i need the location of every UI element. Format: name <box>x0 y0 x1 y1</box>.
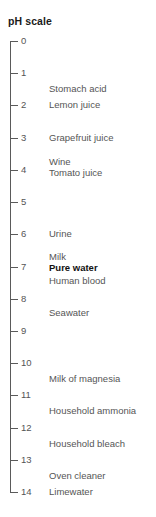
substance-label: Limewater <box>49 487 93 497</box>
axis-tick <box>11 395 18 396</box>
substance-label: Urine <box>49 230 72 240</box>
axis-tick <box>11 267 18 268</box>
axis-tick <box>11 492 18 493</box>
substance-label: Seawater <box>49 308 89 318</box>
axis-tick <box>11 73 18 74</box>
substance-label: Milk <box>49 253 66 263</box>
axis-tick <box>11 170 18 171</box>
axis-tick <box>11 41 18 42</box>
axis-tick-label: 8 <box>21 294 26 304</box>
axis-tick <box>11 234 18 235</box>
axis-tick <box>11 460 18 461</box>
axis-tick-label: 9 <box>21 326 26 336</box>
axis-tick-label: 1 <box>21 68 26 78</box>
axis-tick <box>11 299 18 300</box>
axis-tick <box>11 202 18 203</box>
axis-tick <box>11 138 18 139</box>
axis-tick-label: 6 <box>21 230 26 240</box>
axis-tick-label: 12 <box>21 423 32 433</box>
axis-tick-label: 13 <box>21 455 32 465</box>
axis-tick <box>11 105 18 106</box>
axis-tick-label: 0 <box>21 36 26 46</box>
substance-label: Household bleach <box>49 439 125 449</box>
axis-tick-label: 11 <box>21 391 31 401</box>
axis-tick-label: 14 <box>21 487 32 497</box>
axis-tick <box>11 363 18 364</box>
substance-label: Household ammonia <box>49 407 136 417</box>
axis-tick-label: 4 <box>21 165 26 175</box>
substance-label: Lemon juice <box>49 101 100 111</box>
ph-scale-figure: pH scale 01234567891011121314 Stomach ac… <box>0 0 156 517</box>
substance-label: Milk of magnesia <box>49 375 120 385</box>
axis-tick-label: 5 <box>21 197 26 207</box>
substance-label: Tomato juice <box>49 168 102 178</box>
substance-label: Human blood <box>49 276 106 286</box>
substance-label: Oven cleaner <box>49 471 106 481</box>
substance-label: Pure water <box>49 263 98 273</box>
axis-tick-label: 2 <box>21 101 26 111</box>
axis-tick <box>11 428 18 429</box>
ph-axis: 01234567891011121314 Stomach acidLemon j… <box>0 0 156 517</box>
substance-label: Stomach acid <box>49 85 107 95</box>
axis-tick <box>11 331 18 332</box>
axis-tick-label: 7 <box>21 262 26 272</box>
substance-label: Wine <box>49 157 71 167</box>
axis-tick-label: 3 <box>21 133 26 143</box>
axis-tick-label: 10 <box>21 358 32 368</box>
substance-label: Grapefruit juice <box>49 133 113 143</box>
